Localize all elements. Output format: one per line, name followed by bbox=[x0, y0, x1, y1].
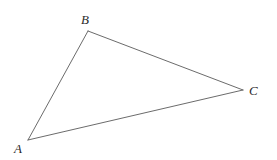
geometry-figure-canvas: A B C bbox=[0, 0, 277, 160]
triangle-edge-ca bbox=[28, 90, 243, 140]
vertex-label-a: A bbox=[13, 141, 22, 156]
triangle-edge-ab bbox=[28, 31, 88, 140]
triangle-diagram: A B C bbox=[0, 0, 277, 160]
triangle-edge-bc bbox=[88, 31, 243, 90]
vertex-label-b: B bbox=[81, 12, 89, 27]
vertex-label-c: C bbox=[249, 83, 258, 98]
